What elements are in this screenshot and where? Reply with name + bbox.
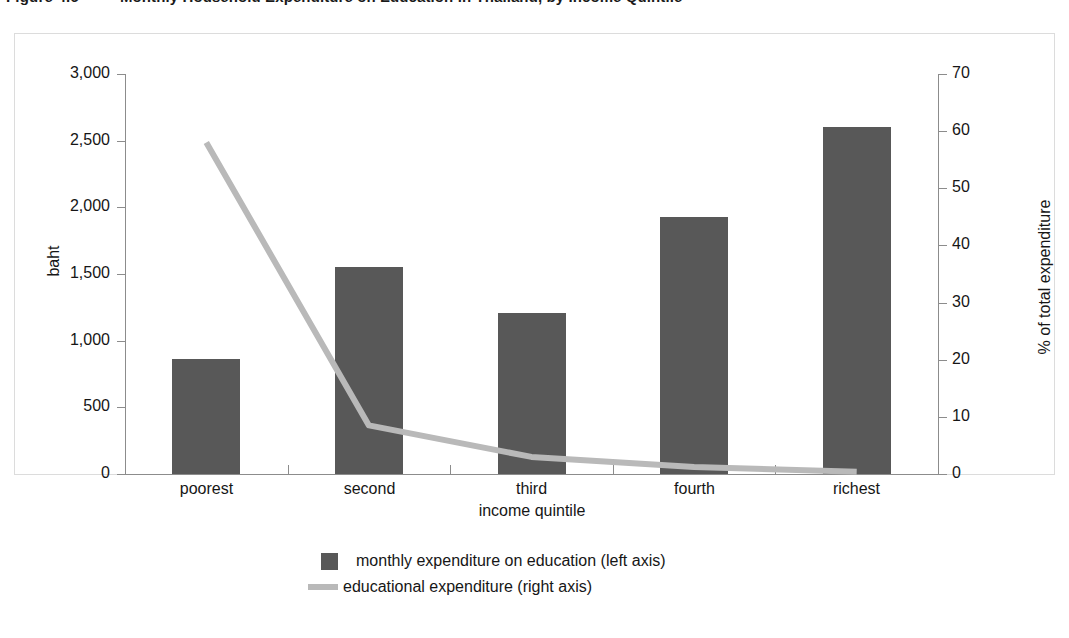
legend-label-line: educational expenditure (right axis) <box>343 578 592 596</box>
y-axis-right-tick <box>938 188 947 189</box>
y-axis-right-title: % of total expenditure <box>1036 162 1054 392</box>
y-axis-left-tick-label: 500 <box>0 398 110 414</box>
y-axis-right-tick-label-wrap: 50 <box>952 179 1012 195</box>
y-axis-right-tick-label-wrap: 30 <box>952 294 1012 310</box>
y-axis-right-tick-label: 70 <box>952 65 1012 81</box>
y-axis-left-tick-label: 3,000 <box>0 65 110 81</box>
y-axis-left-tick-label: 1,000 <box>0 332 110 348</box>
chart-legend: monthly expenditure on education (left a… <box>0 548 1069 600</box>
y-axis-left-tick-label-wrap: 1,000 <box>0 332 110 348</box>
y-axis-right-tick-label: 30 <box>952 294 1012 310</box>
chart-container: 05001,0001,5002,0002,5003,00001020304050… <box>0 0 1069 638</box>
y-axis-right-tick-label-wrap: 40 <box>952 236 1012 252</box>
y-axis-left-tick <box>117 207 126 208</box>
y-axis-left-tick-label-wrap: 500 <box>0 398 110 414</box>
y-axis-left-tick-label-wrap: 2,500 <box>0 132 110 148</box>
y-axis-right-tick-label: 40 <box>952 236 1012 252</box>
y-axis-right-tick-label: 60 <box>952 122 1012 138</box>
y-axis-left-title: baht <box>45 201 63 321</box>
legend-square-icon <box>321 553 338 570</box>
y-axis-left-tick <box>117 474 126 475</box>
y-axis-left-tick-label-wrap: 0 <box>0 465 110 481</box>
y-axis-left-tick <box>117 341 126 342</box>
x-axis-title: income quintile <box>125 502 939 520</box>
bar-third <box>498 313 566 474</box>
y-axis-left-tick <box>117 74 126 75</box>
y-axis-right-tick-label-wrap: 60 <box>952 122 1012 138</box>
bar-second <box>335 267 403 474</box>
y-axis-left-tick-label: 2,500 <box>0 132 110 148</box>
x-axis-line <box>125 474 939 475</box>
y-axis-left-tick-label-wrap: 3,000 <box>0 65 110 81</box>
y-axis-right-tick <box>938 131 947 132</box>
x-axis-category-label: third <box>450 480 613 498</box>
bar-richest <box>823 127 891 474</box>
y-axis-right-tick <box>938 74 947 75</box>
legend-item-bars: monthly expenditure on education (left a… <box>0 548 1069 574</box>
x-axis-category-label: richest <box>775 480 938 498</box>
x-axis-category-label: second <box>288 480 451 498</box>
x-axis-tick <box>613 465 614 474</box>
y-axis-right-tick-label: 0 <box>952 465 1012 481</box>
bar-fourth <box>660 217 728 474</box>
y-axis-right-tick-label-wrap: 20 <box>952 351 1012 367</box>
y-axis-right-tick-label-wrap: 70 <box>952 65 1012 81</box>
y-axis-right-tick-label: 10 <box>952 408 1012 424</box>
y-axis-right-tick-label: 20 <box>952 351 1012 367</box>
y-axis-left-tick <box>117 274 126 275</box>
y-axis-right-tick-label: 50 <box>952 179 1012 195</box>
bar-poorest <box>172 359 240 474</box>
y-axis-right-tick-label-wrap: 0 <box>952 465 1012 481</box>
y-axis-left-tick-label: 0 <box>0 465 110 481</box>
y-axis-right-tick <box>938 474 947 475</box>
x-axis-tick <box>775 465 776 474</box>
y-axis-right-tick <box>938 360 947 361</box>
x-axis-tick <box>288 465 289 474</box>
x-axis-category-label: poorest <box>125 480 288 498</box>
legend-label-bars: monthly expenditure on education (left a… <box>356 552 666 570</box>
legend-item-line: educational expenditure (right axis) <box>0 574 1069 600</box>
y-axis-left-tick <box>117 141 126 142</box>
x-axis-tick <box>450 465 451 474</box>
y-axis-right-tick-label-wrap: 10 <box>952 408 1012 424</box>
y-axis-right-line <box>938 74 939 475</box>
y-axis-left-tick <box>117 407 126 408</box>
x-axis-category-label: fourth <box>613 480 776 498</box>
y-axis-right-tick <box>938 303 947 304</box>
y-axis-right-tick <box>938 417 947 418</box>
y-axis-right-tick <box>938 245 947 246</box>
legend-line-icon <box>308 584 338 590</box>
